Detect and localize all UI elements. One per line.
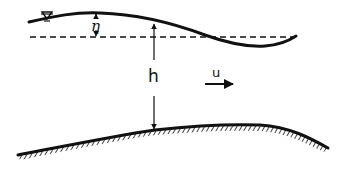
- free-surface-curve: [29, 13, 296, 46]
- elevation-label: η: [91, 17, 100, 35]
- sea-bed: [18, 125, 328, 160]
- velocity-indicator: u: [205, 65, 233, 84]
- elevation-indicator: η: [91, 14, 100, 36]
- velocity-label: u: [212, 65, 220, 80]
- depth-indicator: h: [148, 24, 159, 129]
- sea-bed-hatching: [18, 125, 328, 160]
- depth-label: h: [148, 66, 159, 86]
- wave-diagram: η h u: [0, 0, 346, 169]
